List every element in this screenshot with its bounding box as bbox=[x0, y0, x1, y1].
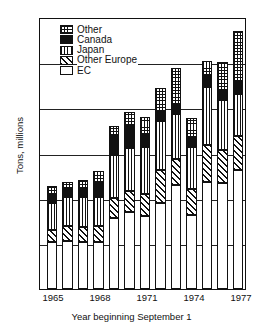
segment-other bbox=[140, 117, 150, 135]
segment-other-europe bbox=[233, 136, 243, 169]
segment-ec bbox=[140, 216, 150, 289]
segment-other bbox=[186, 118, 196, 138]
segment-japan bbox=[202, 87, 212, 146]
segment-other bbox=[233, 31, 243, 82]
segment-ec bbox=[124, 212, 134, 289]
segment-japan bbox=[233, 94, 243, 136]
legend-label: Other Europe bbox=[77, 55, 138, 65]
segment-ec bbox=[186, 215, 196, 289]
segment-japan bbox=[217, 100, 227, 150]
segment-other bbox=[155, 88, 165, 112]
segment-japan bbox=[140, 147, 150, 194]
segment-canada bbox=[186, 138, 196, 147]
segment-japan bbox=[78, 197, 88, 227]
bar-1968 bbox=[94, 171, 104, 289]
segment-japan bbox=[124, 148, 134, 190]
segment-other-europe bbox=[78, 227, 88, 242]
cross-dot-swatch bbox=[60, 25, 73, 34]
bar-1965 bbox=[47, 186, 57, 289]
x-tick-1974: 1974 bbox=[174, 292, 214, 303]
bar-1966 bbox=[63, 182, 73, 289]
segment-ec bbox=[47, 242, 57, 289]
segment-other-europe bbox=[47, 230, 57, 242]
segment-other-europe bbox=[186, 189, 196, 215]
vertical-lines-swatch bbox=[60, 46, 73, 55]
y-axis-title-wrap: Tons, millions bbox=[0, 0, 34, 290]
legend-label: EC bbox=[77, 66, 92, 76]
segment-other-europe bbox=[202, 145, 212, 181]
segment-ec bbox=[171, 185, 181, 289]
segment-ec bbox=[155, 203, 165, 289]
segment-canada bbox=[93, 183, 103, 197]
x-tick-1977: 1977 bbox=[221, 292, 261, 303]
segment-canada bbox=[62, 189, 72, 197]
segment-other bbox=[124, 112, 134, 126]
bar-1972 bbox=[156, 88, 166, 289]
stacked-bar-chart: 18 15 12 9 6 3 0 Tons, millions OtherCan… bbox=[0, 0, 263, 331]
segment-canada bbox=[109, 136, 119, 154]
segment-other bbox=[47, 186, 57, 195]
segment-japan bbox=[186, 147, 196, 189]
segment-ec bbox=[233, 170, 243, 289]
segment-other-europe bbox=[140, 194, 150, 217]
segment-canada bbox=[217, 91, 227, 100]
segment-ec bbox=[202, 182, 212, 289]
x-axis-title: Year beginning September 1 bbox=[0, 311, 263, 322]
segment-ec bbox=[93, 242, 103, 289]
segment-other bbox=[171, 68, 181, 104]
segment-other-europe bbox=[109, 198, 119, 218]
segment-other-europe bbox=[155, 170, 165, 203]
segment-canada bbox=[140, 135, 150, 147]
segment-canada bbox=[155, 112, 165, 121]
segment-ec bbox=[109, 218, 119, 289]
segment-canada bbox=[171, 105, 181, 114]
segment-other-europe bbox=[171, 159, 181, 185]
x-tick-1968: 1968 bbox=[80, 292, 120, 303]
chart-legend: OtherCanadaJapanOther EuropeEC bbox=[60, 25, 138, 76]
bar-1973 bbox=[171, 68, 181, 289]
segment-other bbox=[217, 62, 227, 91]
segment-ec bbox=[217, 183, 227, 289]
segment-other-europe bbox=[124, 191, 134, 212]
bar-1967 bbox=[78, 180, 88, 289]
bar-1970 bbox=[125, 112, 135, 289]
bar-1974 bbox=[187, 118, 197, 289]
segment-other bbox=[62, 182, 72, 190]
segment-other-europe bbox=[93, 226, 103, 243]
x-tick-1971: 1971 bbox=[127, 292, 167, 303]
segment-japan bbox=[155, 121, 165, 169]
segment-other bbox=[78, 180, 88, 189]
bar-1971 bbox=[140, 117, 150, 289]
segment-japan bbox=[47, 203, 57, 230]
y-axis-title: Tons, millions bbox=[14, 91, 25, 201]
diagonal-hatch-swatch bbox=[60, 56, 73, 65]
bar-1969 bbox=[109, 126, 119, 289]
segment-canada bbox=[78, 189, 88, 197]
segment-canada bbox=[233, 82, 243, 94]
segment-japan bbox=[93, 197, 103, 226]
bar-1976 bbox=[218, 62, 228, 289]
legend-item-ec: EC bbox=[60, 66, 138, 76]
segment-canada bbox=[47, 195, 57, 203]
segment-japan bbox=[171, 114, 181, 159]
segment-canada bbox=[202, 76, 212, 87]
solid-black-swatch bbox=[60, 35, 73, 44]
segment-ec bbox=[78, 242, 88, 289]
open-white-swatch bbox=[60, 66, 73, 75]
segment-other-europe bbox=[217, 150, 227, 183]
segment-other bbox=[93, 171, 103, 183]
segment-other bbox=[202, 61, 212, 76]
segment-japan bbox=[62, 197, 72, 226]
x-tick-1965: 1965 bbox=[33, 292, 73, 303]
segment-other bbox=[109, 126, 119, 137]
segment-ec bbox=[62, 241, 72, 289]
bar-1975 bbox=[202, 61, 212, 289]
bar-1977 bbox=[233, 31, 243, 289]
segment-other-europe bbox=[62, 226, 72, 241]
segment-japan bbox=[109, 155, 119, 199]
legend-item-other-europe: Other Europe bbox=[60, 56, 138, 66]
segment-canada bbox=[124, 126, 134, 149]
